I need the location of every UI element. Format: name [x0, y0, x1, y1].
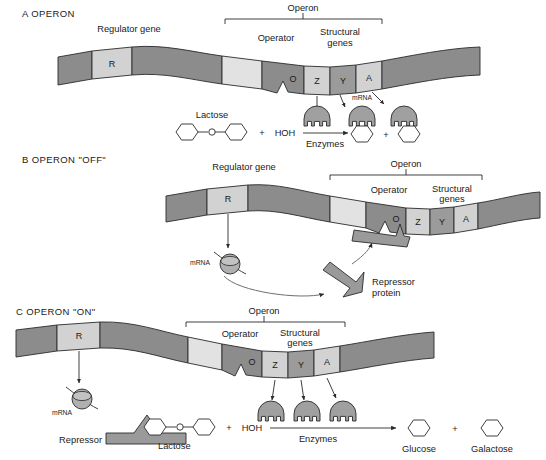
panel-a-dna-segment	[132, 46, 222, 84]
panel-c-mrna-arrow	[301, 380, 304, 400]
panel-b-repressor-protein	[323, 262, 364, 297]
panel-c-gene-letter-z: Z	[272, 360, 278, 370]
panel-a-enzyme-glyph	[349, 106, 375, 126]
panel-b-gene-letter-z: Z	[415, 217, 421, 227]
panel-c-structural-genes-label-1: Structural	[280, 328, 320, 338]
panel-a-lactose-molecule	[176, 124, 247, 140]
panel-a-gene-letter-a: A	[366, 73, 372, 83]
panel-c-mrna-arrow	[327, 378, 336, 398]
panel-a-enzyme-glyph	[304, 106, 330, 126]
panel-a: A OPERON Operon Regulator gene Operator …	[22, 3, 480, 149]
panel-c-gene-letter-a: A	[324, 357, 330, 367]
panel-c-gene-letter-r: R	[76, 331, 83, 341]
panel-b-operon-bracket: Operon	[330, 159, 482, 180]
panel-c-galactose-label: Galactose	[471, 444, 513, 454]
panel-c-plus-2: +	[452, 424, 457, 434]
panel-c: C OPERON "ON" Operon Operator Structural…	[16, 306, 513, 454]
panel-b-binding-arrow	[352, 243, 372, 264]
panel-c-galactose-hexagon	[481, 420, 503, 436]
panel-a-enzyme-glyph	[391, 106, 417, 126]
panel-a-enzymes-label: Enzymes	[306, 139, 345, 149]
panel-b-structural-genes-label-2: genes	[439, 194, 465, 204]
panel-c-dna-segment	[100, 322, 188, 363]
panel-a-mrna-label: mRNA	[352, 94, 372, 101]
panel-c-gene-box-operator	[222, 344, 262, 377]
panel-c-dna-segment-light	[188, 337, 222, 370]
panel-b-gene-letter-y: Y	[439, 217, 445, 227]
panel-c-enzymes-label: Enzymes	[299, 434, 338, 444]
figure-canvas: A OPERON Operon Regulator gene Operator …	[0, 0, 546, 460]
panel-c-enzyme-glyph	[330, 401, 356, 421]
panel-b-dna-segment	[166, 189, 207, 222]
panel-b-operon-bracket-label: Operon	[390, 159, 421, 169]
panel-a-structural-genes-label-1: Structural	[320, 27, 360, 37]
panel-a-operator-label: Operator	[258, 33, 295, 43]
panel-b-repressor-label-2: protein	[372, 288, 400, 298]
panel-c-plus-1: +	[226, 423, 231, 433]
panel-c-mrna-label: mRNA	[52, 409, 72, 416]
panel-a-regulator-gene-label: Regulator gene	[97, 24, 161, 34]
panel-b-structural-genes-label-1: Structural	[432, 184, 472, 194]
panel-b-gene-letter-o: O	[392, 214, 399, 224]
panel-a-dna-segment	[382, 47, 480, 89]
panel-b-label: B OPERON "OFF"	[22, 154, 106, 165]
panel-b-gene-letter-a: A	[463, 214, 469, 224]
panel-a-product-hexagon	[351, 126, 373, 142]
lac-operon-diagram: A OPERON Operon Regulator gene Operator …	[0, 0, 546, 460]
panel-a-gene-letter-z: Z	[314, 76, 320, 86]
panel-c-operator-label: Operator	[222, 329, 259, 339]
panel-c-gene-letter-y: Y	[298, 360, 304, 370]
panel-a-gene-letter-r: R	[109, 59, 116, 69]
panel-c-operon-bracket: Operon	[186, 306, 345, 327]
panel-b-ribosome	[214, 252, 246, 274]
panel-a-gene-letter-y: Y	[340, 76, 346, 86]
panel-b-dna-segment	[248, 185, 330, 222]
panel-c-enzyme-glyph	[294, 401, 320, 421]
panel-b-dna-segment-light	[330, 196, 366, 228]
panel-c-enzyme-glyph	[258, 401, 284, 421]
panel-c-gene-letter-o: O	[248, 357, 255, 367]
panel-b-regulator-gene-label: Regulator gene	[212, 162, 276, 172]
panel-a-dna-segment-light	[222, 56, 262, 89]
panel-b-operator-label: Operator	[371, 185, 408, 195]
panel-b-mrna-label: mRNA	[190, 259, 210, 266]
panel-c-lactose-label: Lactose	[158, 441, 191, 451]
panel-a-gene-letter-o: O	[289, 74, 296, 84]
panel-c-mrna-arrow	[272, 380, 275, 400]
panel-c-label: C OPERON "ON"	[16, 306, 96, 317]
panel-c-water-label: HOH	[242, 423, 263, 433]
panel-b-translation-arrow	[224, 276, 324, 296]
panel-b-gene-letter-r: R	[225, 194, 232, 204]
panel-a-dna-strand	[58, 46, 480, 95]
panel-a-plus-2: +	[383, 130, 388, 140]
panel-c-glucose-label: Glucose	[402, 444, 436, 454]
panel-a-gene-box-operator	[262, 61, 304, 94]
panel-c-structural-genes-label-2: genes	[287, 338, 313, 348]
panel-c-dna-segment	[16, 325, 57, 357]
panel-a-dna-segment	[58, 51, 92, 85]
panel-a-product-hexagon	[398, 126, 420, 142]
panel-b-dna-strand	[166, 185, 540, 235]
panel-a-structural-genes-label-2: genes	[327, 38, 353, 48]
panel-a-operon-bracket-label: Operon	[287, 3, 318, 13]
panel-c-operon-bracket-label: Operon	[248, 306, 279, 316]
panel-a-lactose-label: Lactose	[196, 110, 229, 120]
panel-a-label: A OPERON	[22, 8, 75, 19]
panel-c-ribosome	[66, 387, 98, 409]
panel-b-repressor-label-1: Repressor	[372, 277, 415, 287]
panel-b: B OPERON "OFF" Operon Regulator gene Ope…	[22, 154, 540, 298]
panel-c-repressor-label: Repressor	[59, 435, 102, 445]
panel-a-water-label: HOH	[275, 128, 296, 138]
panel-c-dna-segment	[340, 332, 434, 372]
panel-b-dna-segment	[478, 192, 540, 229]
panel-a-plus-1: +	[259, 128, 264, 138]
panel-c-glucose-hexagon	[408, 420, 430, 436]
panel-a-operon-bracket: Operon	[225, 3, 382, 24]
